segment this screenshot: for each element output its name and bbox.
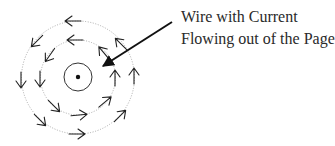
arrow-down-right-icon	[31, 111, 49, 129]
arrow-up-icon	[129, 68, 139, 84]
arrow-up-left-icon	[95, 44, 113, 63]
arrow-up-right-icon	[111, 107, 129, 125]
arrow-left-icon	[65, 16, 81, 26]
arrow-down-icon	[35, 71, 45, 87]
wire-dot-icon	[76, 75, 80, 79]
arrow-down-left-icon	[41, 46, 58, 65]
arrow-up-icon	[110, 70, 120, 86]
arrow-right-icon	[69, 129, 85, 139]
wire-label-line-2: Flowing out of the Page	[181, 28, 335, 50]
arrow-down-icon	[16, 72, 26, 88]
arrow-up-right-icon	[96, 93, 115, 111]
wire-label-line-1: Wire with Current	[181, 6, 335, 28]
arrow-down-left-icon	[28, 32, 46, 50]
pointer-arrow	[103, 22, 172, 66]
arrow-right-icon	[71, 109, 88, 120]
wire-label: Wire with Current Flowing out of the Pag…	[181, 6, 335, 50]
arrow-left-icon	[67, 35, 83, 45]
